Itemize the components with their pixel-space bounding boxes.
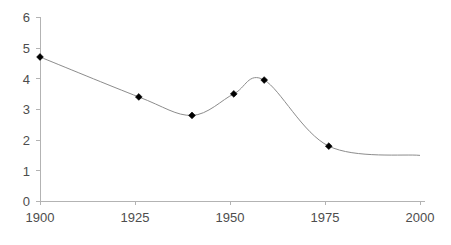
data-point-marker [325,143,332,150]
line-chart: 6 5 4 3 2 1 0 1900 1925 1950 1975 2000 [0,0,451,245]
y-tick-label-1: 1 [23,164,30,179]
chart-canvas: 6 5 4 3 2 1 0 1900 1925 1950 1975 2000 [0,0,451,245]
data-point-marker [261,77,268,84]
data-point-marker [189,112,196,119]
data-point-marker [230,90,237,97]
x-tick-label-2000: 2000 [406,210,435,225]
x-tick-label-1900: 1900 [26,210,55,225]
series-marker-group [37,54,333,150]
y-tick-label-5: 5 [23,41,30,56]
x-axis: 1900 1925 1950 1975 2000 [26,201,435,225]
series-line-path [40,57,420,155]
y-tick-label-0: 0 [23,194,30,209]
series-group [37,54,420,156]
y-axis: 6 5 4 3 2 1 0 [23,10,41,209]
y-tick-label-6: 6 [23,10,30,25]
x-tick-label-1925: 1925 [121,210,150,225]
y-tick-label-2: 2 [23,133,30,148]
x-tick-label-1950: 1950 [216,210,245,225]
data-point-marker [135,94,142,101]
x-tick-label-1975: 1975 [311,210,340,225]
y-tick-label-4: 4 [23,72,30,87]
y-tick-label-3: 3 [23,102,30,117]
data-point-marker [37,54,44,61]
